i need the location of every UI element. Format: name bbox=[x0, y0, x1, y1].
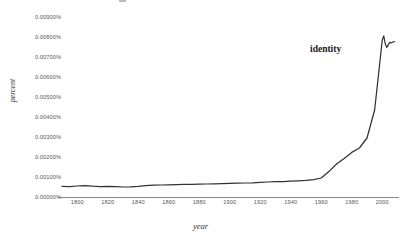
x-tick-label: 1940 bbox=[274, 200, 308, 206]
x-axis-tick-labels: 1800182018401860188019001920194019601980… bbox=[0, 200, 401, 212]
x-tick-label: 1980 bbox=[335, 200, 369, 206]
x-tick-label: 1900 bbox=[213, 200, 247, 206]
x-tick-label: 1840 bbox=[121, 200, 155, 206]
x-tick-label: 1860 bbox=[152, 200, 186, 206]
series-line-identity bbox=[62, 36, 394, 187]
x-tick-label: 1880 bbox=[182, 200, 216, 206]
x-tick-label: 2000 bbox=[365, 200, 399, 206]
x-tick-label: 1820 bbox=[91, 200, 125, 206]
series-annotation-identity: identity bbox=[310, 44, 341, 54]
x-axis-title: year bbox=[0, 221, 401, 231]
x-tick-label: 1960 bbox=[304, 200, 338, 206]
x-tick-label: 1920 bbox=[243, 200, 277, 206]
ngram-chart: percent 0.00900%0.00800%0.00700%0.00600%… bbox=[0, 0, 401, 239]
x-tick-label: 1800 bbox=[60, 200, 94, 206]
